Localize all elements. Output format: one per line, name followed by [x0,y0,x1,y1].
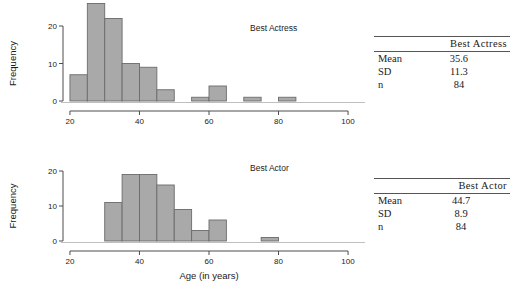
histogram-bar [209,86,226,101]
histogram-bar [105,203,122,242]
x-tick-label: 100 [341,117,355,126]
row-value-sd: 8.9 [423,207,510,220]
histogram-bar [122,64,139,102]
y-axis-title: Frequency [7,41,18,86]
histogram-bar [122,175,139,242]
histogram-figure: 01020Frequency20406080100Best Actress 01… [0,0,514,290]
y-axis-title: Frequency [7,183,18,228]
histogram-bar [87,4,104,102]
row-value-sd: 11.3 [419,65,510,78]
table-column-header: Best Actress [419,37,510,52]
y-tick-label: 20 [48,22,57,31]
table-row: n 84 [374,78,510,91]
row-label-mean: Mean [374,52,419,66]
row-label-n: n [374,220,423,233]
histogram-bar [279,97,296,101]
y-tick-label: 20 [48,167,57,176]
histogram-bar [192,231,209,242]
histogram-bar [157,90,174,101]
table-corner-cell [374,179,423,194]
series-label: Best Actress [250,23,297,33]
histogram-bar [157,185,174,241]
row-label-sd: SD [374,207,423,220]
table-row: Mean 44.7 [374,194,510,208]
y-tick-label: 0 [53,97,58,106]
histogram-bar [261,238,278,242]
x-tick-label: 100 [341,257,355,266]
stats-table-best-actor: Best Actor Mean 44.7 SD 8.9 n 84 [374,178,510,233]
y-tick-label: 10 [48,60,57,69]
histogram-bar [139,67,156,101]
table-row: n 84 [374,220,510,233]
histogram-bar [192,97,209,101]
histogram-bar [70,75,87,101]
table-row: Mean 35.6 [374,52,510,66]
histogram-bar [139,175,156,242]
x-tick-label: 60 [205,257,214,266]
row-value-n: 84 [423,220,510,233]
table-corner-cell [374,37,419,52]
x-tick-label: 40 [135,117,144,126]
histogram-bar [105,19,122,102]
best-actor-plot: 01020Frequency20406080100Age (in years)B… [0,145,365,290]
table-row: SD 11.3 [374,65,510,78]
x-axis-title: Age (in years) [179,270,238,281]
x-tick-label: 20 [65,257,74,266]
row-value-n: 84 [419,78,510,91]
table-row: SD 8.9 [374,207,510,220]
table-column-header: Best Actor [423,179,510,194]
table-header-row: Best Actor [374,179,510,194]
y-tick-label: 0 [53,237,58,246]
row-label-sd: SD [374,65,419,78]
x-tick-label: 80 [274,257,283,266]
chart-panel-best-actor: 01020Frequency20406080100Age (in years)B… [0,145,365,290]
histogram-bar [209,220,226,241]
table-header-row: Best Actress [374,37,510,52]
x-tick-label: 20 [65,117,74,126]
x-tick-label: 60 [205,117,214,126]
stats-table-best-actress: Best Actress Mean 35.6 SD 11.3 n 84 [374,36,510,91]
row-label-mean: Mean [374,194,423,208]
row-label-n: n [374,78,419,91]
histogram-bar [174,210,191,242]
histogram-bar [244,97,261,101]
best-actress-plot: 01020Frequency20406080100Best Actress [0,0,365,145]
y-tick-label: 10 [48,202,57,211]
x-tick-label: 80 [274,117,283,126]
series-label: Best Actor [250,163,289,173]
x-tick-label: 40 [135,257,144,266]
row-value-mean: 44.7 [423,194,510,208]
chart-panel-best-actress: 01020Frequency20406080100Best Actress [0,0,365,145]
row-value-mean: 35.6 [419,52,510,66]
